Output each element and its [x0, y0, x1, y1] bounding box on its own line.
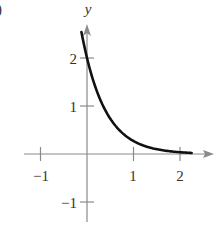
x-tick-label-neg1: −1	[33, 168, 49, 184]
y-tick-label-2: 2	[70, 51, 78, 67]
panel-marker: )	[0, 1, 2, 18]
ticks	[41, 58, 181, 202]
exponential-decay-curve	[81, 32, 191, 153]
x-tick-label-2: 2	[176, 168, 184, 184]
y-tick-label-1: 1	[70, 99, 78, 115]
function-graph: ) −1 1 2 2 1 −1 y	[0, 0, 222, 233]
y-tick-label-neg1: −1	[61, 195, 77, 211]
y-axis-label: y	[83, 1, 92, 17]
axes	[24, 24, 214, 222]
x-tick-label-1: 1	[129, 168, 137, 184]
